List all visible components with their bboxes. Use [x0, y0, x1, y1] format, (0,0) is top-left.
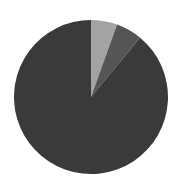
pie-chart	[0, 0, 179, 190]
pie-chart-svg	[0, 0, 179, 190]
